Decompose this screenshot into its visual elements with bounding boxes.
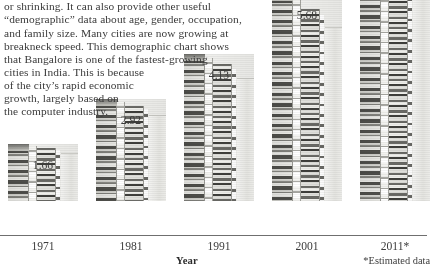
bar-2011[interactable] [360, 0, 430, 201]
x-tick-2001: 2001 [272, 240, 342, 253]
slab-right-icon [149, 115, 167, 201]
estimated-data-footnote: *Estimated data [363, 255, 430, 266]
building-image-1971 [8, 144, 78, 201]
bar-value-1971: 1.66 [8, 159, 78, 172]
article-paragraph: or shrinking. It can also provide other … [4, 0, 242, 118]
x-axis-title: Year [176, 255, 198, 266]
x-tick-1991: 1991 [184, 240, 254, 253]
x-axis-line [0, 235, 427, 236]
chart-figure: or shrinking. It can also provide other … [0, 0, 434, 270]
tower-left-icon [360, 0, 381, 201]
slab-right-icon [325, 27, 343, 201]
tower-mid-icon [37, 148, 55, 201]
x-tick-1981: 1981 [96, 240, 166, 253]
x-tick-2011: 2011* [360, 240, 430, 253]
tower-mid-icon [389, 0, 407, 201]
tower-mid-icon [301, 9, 319, 202]
bar-1971[interactable] [8, 144, 78, 201]
tower-service-icon [29, 146, 37, 201]
tower-left-icon [272, 0, 293, 201]
building-image-2001 [272, 0, 342, 201]
bar-2001[interactable] [272, 0, 342, 201]
tower-left-icon [8, 144, 29, 201]
slab-right-icon [413, 0, 431, 201]
tower-service-icon [381, 0, 389, 201]
x-tick-1971: 1971 [8, 240, 78, 253]
bar-value-2001: 5.68 [272, 9, 342, 22]
building-image-2011 [360, 0, 430, 201]
tower-service-icon [293, 0, 301, 201]
